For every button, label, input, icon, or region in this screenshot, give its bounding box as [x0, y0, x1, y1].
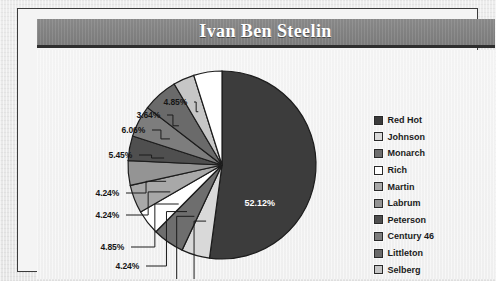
legend-item-label: Littleton [388, 248, 424, 258]
legend-swatch-icon [374, 182, 383, 191]
slice-value-label: 4.85% [101, 242, 125, 252]
legend-item[interactable]: Labrum [374, 195, 495, 212]
legend-item-label: Labrum [388, 198, 421, 208]
legend-item-label: Martin [388, 182, 415, 192]
slice-value-label-red-hot: 52.12% [245, 198, 276, 208]
legend-item-label: Century 46 [388, 231, 435, 241]
slice-value-label: 5.45% [109, 150, 133, 160]
legend-item[interactable]: Century 46 [374, 228, 495, 245]
slice-value-label: 4.85% [164, 97, 188, 107]
pie-slice[interactable] [209, 71, 316, 259]
legend-swatch-icon [374, 132, 383, 141]
slice-value-label: 4.24% [116, 261, 140, 271]
page-title: Ivan Ben Steelin [199, 21, 331, 42]
legend-swatch-icon [374, 199, 383, 208]
slice-value-label: 4.24% [96, 210, 120, 220]
legend-item-label: Johnson [388, 132, 426, 142]
legend-swatch-icon [374, 249, 383, 258]
legend-item[interactable]: Peterson [374, 212, 495, 229]
legend-item-label: Monarch [388, 148, 426, 158]
legend-item[interactable]: Rich [374, 162, 495, 179]
chart-frame: Ivan Ben Steelin 4.85%3.64%6.06%5.45%4.2… [17, 8, 478, 272]
slice-value-label: 6.06% [122, 125, 146, 135]
legend-item-label: Red Hot [388, 115, 423, 125]
legend-item-label: Rich [388, 165, 408, 175]
legend-item[interactable]: Selberg [374, 261, 495, 278]
legend-item[interactable]: Red Hot [374, 112, 495, 129]
plot-area: 4.85%3.64%6.06%5.45%4.24%4.24%4.85%4.24%… [37, 50, 495, 279]
legend-swatch-icon [374, 116, 383, 125]
legend-swatch-icon [374, 265, 383, 274]
legend-swatch-icon [374, 166, 383, 175]
legend-item[interactable]: Littleton [374, 245, 495, 262]
legend-item[interactable]: Baker [374, 278, 495, 279]
legend-item-label: Peterson [388, 215, 427, 225]
legend-item[interactable]: Johnson [374, 129, 495, 146]
legend-swatch-icon [374, 232, 383, 241]
legend-item[interactable]: Monarch [374, 145, 495, 162]
slice-value-label: 3.64% [137, 110, 161, 120]
legend-item[interactable]: Martin [374, 178, 495, 195]
chart-screenshot: Ivan Ben Steelin 4.85%3.64%6.06%5.45%4.2… [0, 0, 496, 281]
slice-value-label: 4.24% [96, 188, 120, 198]
title-banner: Ivan Ben Steelin [37, 19, 495, 48]
legend-swatch-icon [374, 215, 383, 224]
slice-value-label: 5.45% [129, 277, 153, 279]
legend-swatch-icon [374, 149, 383, 158]
legend: Red HotJohnsonMonarchRichMartinLabrumPet… [374, 112, 495, 279]
legend-item-label: Selberg [388, 265, 421, 275]
